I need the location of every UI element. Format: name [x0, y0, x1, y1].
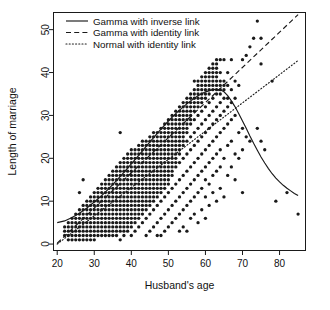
scatter-point — [215, 67, 218, 70]
scatter-point — [85, 238, 88, 241]
scatter-point — [126, 225, 129, 228]
scatter-point — [208, 71, 211, 74]
scatter-point — [107, 191, 110, 194]
scatter-point — [145, 217, 148, 220]
scatter-point — [248, 45, 251, 48]
scatter-point — [93, 225, 96, 228]
scatter-point — [193, 101, 196, 104]
scatter-point — [130, 178, 133, 181]
scatter-point — [185, 97, 188, 100]
scatter-point — [145, 200, 148, 203]
scatter-point — [111, 217, 114, 220]
scatter-point — [178, 230, 181, 233]
scatter-point — [233, 178, 236, 181]
scatter-point — [89, 230, 92, 233]
scatter-point — [156, 191, 159, 194]
scatter-point — [63, 225, 66, 228]
scatter-point — [189, 182, 192, 185]
scatter-point — [141, 208, 144, 211]
scatter-point — [182, 135, 185, 138]
scatter-point — [211, 75, 214, 78]
scatter-point — [193, 131, 196, 134]
scatter-point — [167, 140, 170, 143]
scatter-point — [159, 234, 162, 237]
scatter-point — [119, 225, 122, 228]
scatter-point — [167, 148, 170, 151]
scatter-point — [145, 178, 148, 181]
scatter-point — [222, 109, 225, 112]
scatter-point — [230, 118, 233, 121]
scatter-point — [185, 131, 188, 134]
scatter-point — [148, 200, 151, 203]
scatter-point — [174, 140, 177, 143]
scatter-point — [178, 212, 181, 215]
scatter-point — [130, 225, 133, 228]
scatter-point — [163, 148, 166, 151]
scatter-point — [193, 118, 196, 121]
scatter-point — [170, 165, 173, 168]
scatter-point — [196, 191, 199, 194]
scatter-point — [74, 234, 77, 237]
scatter-point — [252, 37, 255, 40]
scatter-point — [204, 178, 207, 181]
scatter-point — [152, 200, 155, 203]
scatter-point — [67, 225, 70, 228]
scatter-point — [182, 131, 185, 134]
scatter-point — [156, 187, 159, 190]
scatter-point — [141, 174, 144, 177]
scatter-point — [107, 200, 110, 203]
scatter-point — [219, 187, 222, 190]
scatter-point — [96, 204, 99, 207]
scatter-point — [85, 234, 88, 237]
scatter-point — [152, 182, 155, 185]
scatter-point — [241, 148, 244, 151]
scatter-point — [115, 187, 118, 190]
scatter-point — [159, 182, 162, 185]
scatter-point — [82, 230, 85, 233]
scatter-point — [174, 122, 177, 125]
scatter-point — [115, 221, 118, 224]
scatter-point — [111, 230, 114, 233]
scatter-point — [89, 195, 92, 198]
y-tick-label: 50 — [40, 24, 51, 36]
scatter-plot: 2030405060708001020304050Husband's ageLe… — [0, 0, 330, 310]
scatter-point — [174, 135, 177, 138]
scatter-point — [119, 212, 122, 215]
scatter-point — [219, 92, 222, 95]
scatter-point — [189, 118, 192, 121]
scatter-point — [230, 58, 233, 61]
scatter-point — [141, 140, 144, 143]
scatter-point — [174, 148, 177, 151]
scatter-point — [211, 191, 214, 194]
scatter-point — [141, 182, 144, 185]
scatter-point — [130, 217, 133, 220]
scatter-point — [111, 174, 114, 177]
scatter-point — [130, 191, 133, 194]
scatter-point — [193, 79, 196, 82]
x-tick-label: 30 — [89, 258, 101, 269]
scatter-point — [163, 182, 166, 185]
scatter-point — [159, 152, 162, 155]
scatter-point — [182, 157, 185, 160]
scatter-point — [107, 221, 110, 224]
scatter-point — [145, 170, 148, 173]
scatter-point — [122, 221, 125, 224]
scatter-point — [185, 152, 188, 155]
fitted-curve-solid — [57, 89, 298, 222]
scatter-point — [104, 217, 107, 220]
scatter-point — [170, 140, 173, 143]
scatter-point — [222, 79, 225, 82]
scatter-point — [222, 127, 225, 130]
scatter-point — [141, 170, 144, 173]
scatter-point — [204, 84, 207, 87]
scatter-point — [208, 182, 211, 185]
scatter-point — [137, 187, 140, 190]
scatter-point — [126, 212, 129, 215]
scatter-point — [182, 109, 185, 112]
scatter-point — [185, 109, 188, 112]
scatter-point — [178, 161, 181, 164]
scatter-point — [115, 225, 118, 228]
scatter-point — [219, 114, 222, 117]
scatter-point — [107, 230, 110, 233]
scatter-point — [196, 79, 199, 82]
